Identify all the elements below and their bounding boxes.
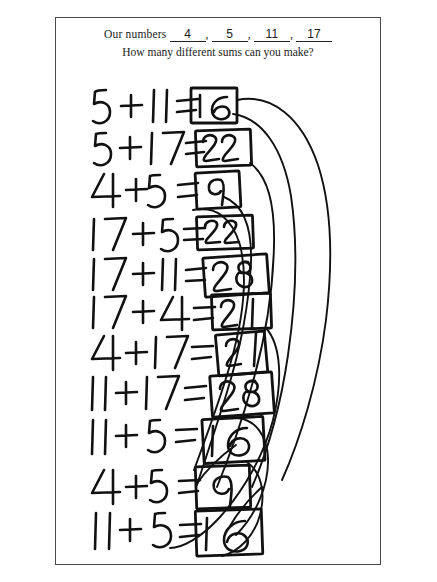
equation-row-3	[92, 171, 241, 209]
handwriting-layer	[0, 0, 437, 582]
worksheet-page: Our numbers 4, 5, 11, 17 How many differ…	[0, 0, 437, 582]
equation-row-10	[92, 465, 251, 509]
equation-row-8	[92, 372, 274, 417]
equation-row-4	[93, 215, 254, 251]
equation-row-6	[93, 293, 272, 330]
arc-7	[236, 418, 268, 535]
equation-row-2	[94, 129, 252, 167]
equation-row-1	[93, 88, 237, 123]
handwritten-work-svg	[0, 0, 437, 582]
equation-row-9	[92, 416, 265, 463]
